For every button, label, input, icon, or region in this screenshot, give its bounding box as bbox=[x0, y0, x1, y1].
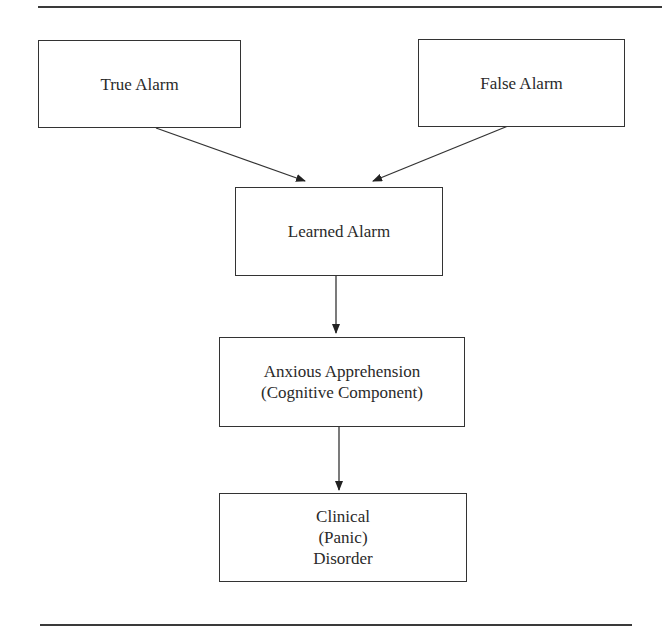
node-label: Learned Alarm bbox=[288, 221, 390, 242]
node-label-line-2: (Cognitive Component) bbox=[261, 382, 423, 403]
arrow-false-to-learned bbox=[373, 126, 508, 181]
node-label-line-3: Disorder bbox=[313, 548, 372, 569]
node-label-line-1: Clinical bbox=[316, 506, 370, 527]
node-anxious-apprehension: Anxious Apprehension (Cognitive Componen… bbox=[219, 337, 465, 427]
bottom-rule bbox=[40, 624, 632, 626]
node-clinical-panic-disorder: Clinical (Panic) Disorder bbox=[219, 493, 467, 582]
arrow-true-to-learned bbox=[156, 128, 305, 181]
node-false-alarm: False Alarm bbox=[418, 39, 625, 127]
node-label: True Alarm bbox=[100, 74, 178, 95]
node-label-line-1: Anxious Apprehension bbox=[264, 361, 420, 382]
node-label-line-2: (Panic) bbox=[318, 527, 367, 548]
node-learned-alarm: Learned Alarm bbox=[235, 187, 443, 276]
node-label: False Alarm bbox=[480, 73, 563, 94]
node-true-alarm: True Alarm bbox=[38, 40, 241, 128]
